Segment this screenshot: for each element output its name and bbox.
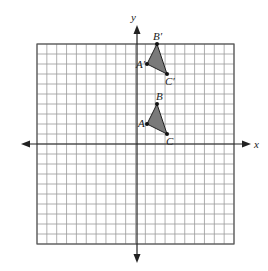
vertex-c-prime-label: C′ — [165, 75, 175, 87]
x-axis-left-arrow-icon — [21, 141, 30, 148]
y-axis-label: y — [130, 11, 136, 23]
vertex-b-prime-dot — [155, 42, 159, 46]
y-axis-down-arrow-icon — [134, 254, 141, 263]
x-axis-label: x — [253, 138, 259, 150]
x-axis-right-arrow-icon — [242, 141, 251, 148]
vertex-b-dot — [155, 102, 159, 106]
vertex-a-label: A — [137, 117, 145, 129]
vertex-a-prime-label: A′ — [135, 58, 146, 70]
vertex-a-prime-dot — [145, 62, 149, 66]
vertex-c-label: C — [166, 135, 174, 147]
vertex-a-dot — [145, 122, 149, 126]
y-axis-up-arrow-icon — [134, 25, 141, 34]
coordinate-plane: x y A′ B′ C′ A B C — [0, 0, 268, 271]
vertex-b-prime-label: B′ — [153, 30, 163, 42]
vertex-b-label: B — [156, 90, 163, 102]
